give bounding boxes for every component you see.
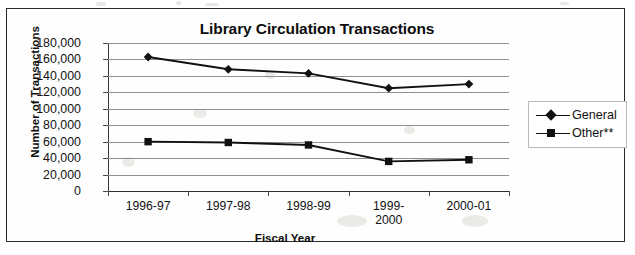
legend-item-general[interactable]: General	[536, 106, 617, 124]
legend-marker-square-icon	[547, 129, 555, 137]
y-tick-label: 20,000	[1, 168, 81, 182]
x-tick-mark	[509, 191, 510, 196]
y-tick-label: 100,000	[1, 102, 81, 116]
x-tick-label: 2000-01	[423, 199, 515, 213]
scan-artifact	[176, 1, 181, 5]
x-tick-mark	[429, 191, 430, 196]
y-tick-label: 120,000	[1, 85, 81, 99]
y-tick-label: 80,000	[1, 118, 81, 132]
x-tick-mark	[108, 191, 109, 196]
scan-artifact	[462, 215, 488, 227]
scan-artifact	[205, 3, 219, 6]
x-tick-mark	[188, 191, 189, 196]
scan-artifact	[560, 2, 569, 5]
data-point-marker	[384, 84, 393, 93]
data-point-marker	[224, 65, 233, 74]
x-tick-mark	[349, 191, 350, 196]
x-axis-title: Fiscal Year	[220, 231, 350, 244]
x-tick-label: 1998-99	[263, 199, 355, 213]
y-tick-label: 60,000	[1, 135, 81, 149]
series-layer	[108, 43, 509, 191]
legend: GeneralOther**	[528, 101, 627, 148]
x-axis-line	[108, 191, 509, 192]
x-tick-label: 1996-97	[102, 199, 194, 213]
data-point-marker	[385, 158, 392, 165]
data-point-marker	[144, 53, 153, 62]
y-tick-label: 140,000	[1, 69, 81, 83]
x-tick-label: 1997-98	[182, 199, 274, 213]
y-tick-label: 40,000	[1, 151, 81, 165]
scan-artifact	[96, 2, 106, 6]
chart-title: Library Circulation Transactions	[117, 20, 517, 38]
legend-marker-diamond-icon	[545, 109, 556, 120]
y-tick-label: 180,000	[1, 36, 81, 50]
data-point-marker	[465, 80, 474, 89]
x-tick-label: 1999-2000	[343, 199, 435, 227]
y-tick-label: 160,000	[1, 52, 81, 66]
legend-key-square-icon	[536, 126, 570, 140]
data-point-marker	[465, 156, 472, 163]
legend-key-diamond-icon	[536, 108, 570, 122]
x-tick-mark	[268, 191, 269, 196]
data-point-marker	[304, 69, 313, 78]
chart-frame: Library Circulation Transactions Number …	[6, 8, 625, 242]
legend-item-other[interactable]: Other**	[536, 124, 617, 142]
data-point-marker	[144, 138, 151, 145]
plot-area	[108, 43, 509, 191]
data-point-marker	[225, 139, 232, 146]
legend-label: General	[572, 108, 617, 122]
y-tick-label: 0	[1, 184, 81, 198]
legend-label: Other**	[572, 126, 613, 140]
data-point-marker	[305, 141, 312, 148]
